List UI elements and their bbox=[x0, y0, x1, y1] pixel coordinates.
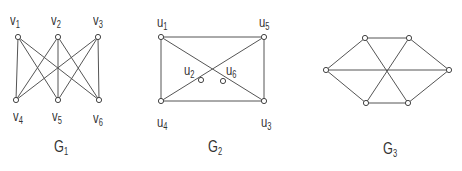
vertex-label-v4: v4 bbox=[13, 108, 23, 126]
vertex-label-subscript: 6 bbox=[232, 69, 236, 80]
vertex-label-u5: u5 bbox=[259, 14, 269, 32]
vertex-u6 bbox=[220, 78, 225, 83]
vertex-label-v6: v6 bbox=[93, 110, 103, 128]
vertex-label-subscript: 2 bbox=[190, 69, 194, 80]
vertex-v5 bbox=[55, 97, 60, 102]
vertex-f bbox=[405, 100, 410, 105]
graph-title-main: G bbox=[383, 139, 393, 158]
graph-title-main: G bbox=[208, 137, 218, 156]
vertex-label-subscript: 2 bbox=[57, 19, 61, 30]
vertex-label-subscript: 1 bbox=[16, 19, 20, 30]
vertex-label-u2: u2 bbox=[184, 62, 194, 80]
graph-title-subscript: 2 bbox=[218, 146, 222, 157]
edge-a-b bbox=[326, 38, 365, 70]
vertex-label-v3: v3 bbox=[93, 12, 103, 30]
vertex-d bbox=[446, 67, 451, 72]
vertex-c bbox=[406, 35, 411, 40]
edge-v1-v4 bbox=[16, 37, 18, 100]
vertex-label-v1: v1 bbox=[10, 12, 20, 30]
edge-e-a bbox=[326, 70, 366, 103]
vertex-u2 bbox=[198, 77, 203, 82]
vertex-label-u3: u3 bbox=[261, 114, 271, 132]
vertex-label-subscript: 5 bbox=[265, 21, 269, 32]
vertex-v3 bbox=[95, 34, 100, 39]
vertex-label-subscript: 3 bbox=[267, 121, 271, 132]
graph-title-1: G1 bbox=[54, 138, 68, 157]
vertex-label-v2: v2 bbox=[51, 12, 61, 30]
vertex-v1 bbox=[15, 34, 20, 39]
graph-title-main: G bbox=[54, 137, 64, 156]
vertex-u3 bbox=[261, 98, 266, 103]
vertex-v4 bbox=[13, 97, 18, 102]
vertex-label-u1: u1 bbox=[157, 14, 167, 32]
edge-v3-v4 bbox=[16, 37, 98, 100]
vertex-u4 bbox=[158, 98, 163, 103]
vertex-label-subscript: 4 bbox=[19, 115, 23, 126]
vertex-a bbox=[323, 67, 328, 72]
edge-v3-v6 bbox=[98, 37, 99, 100]
edge-c-d bbox=[409, 38, 449, 70]
graph-title-3: G3 bbox=[383, 140, 397, 159]
vertex-v2 bbox=[55, 34, 60, 39]
vertex-label-u6: u6 bbox=[226, 62, 236, 80]
vertex-label-subscript: 3 bbox=[99, 19, 103, 30]
vertex-label-u4: u4 bbox=[157, 114, 167, 132]
vertex-b bbox=[362, 35, 367, 40]
vertex-label-subscript: 4 bbox=[163, 121, 167, 132]
vertex-u5 bbox=[261, 34, 266, 39]
vertex-e bbox=[363, 100, 368, 105]
vertex-label-subscript: 6 bbox=[99, 117, 103, 128]
vertex-label-subscript: 1 bbox=[163, 21, 167, 32]
vertex-v6 bbox=[96, 97, 101, 102]
vertex-label-v5: v5 bbox=[52, 108, 62, 126]
vertex-label-subscript: 5 bbox=[58, 115, 62, 126]
graph-title-subscript: 1 bbox=[64, 146, 68, 157]
graph-title-2: G2 bbox=[208, 138, 222, 157]
vertex-u1 bbox=[158, 34, 163, 39]
graph-title-subscript: 3 bbox=[393, 148, 397, 159]
edge-d-f bbox=[408, 70, 449, 103]
